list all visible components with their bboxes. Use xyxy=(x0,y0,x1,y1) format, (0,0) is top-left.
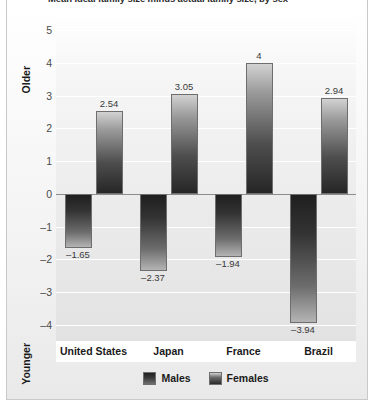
chart-figure: Mean ideal family size minus actual fami… xyxy=(0,0,372,403)
bar-value-label: 3.05 xyxy=(165,81,204,92)
legend-swatch-females xyxy=(209,372,222,385)
y-axis-tick-label: –1 xyxy=(28,221,52,233)
y-axis-tick-label: –2 xyxy=(28,253,52,265)
y-axis-top-label: Older xyxy=(20,66,32,93)
legend-item[interactable]: Females xyxy=(209,372,269,385)
y-axis-tick-label: 2 xyxy=(28,122,52,134)
y-axis-ticks: 543210–1–2–3–4 xyxy=(22,14,52,341)
bar-value-label: 2.54 xyxy=(90,98,129,109)
x-axis-category-label: United States xyxy=(56,341,131,362)
y-axis-tick-label: 1 xyxy=(28,155,52,167)
y-axis-tick-label: 0 xyxy=(28,188,52,200)
bar xyxy=(65,194,92,248)
x-axis-category-label: Brazil xyxy=(281,341,356,362)
y-axis-tick-label: –3 xyxy=(28,286,52,298)
bar xyxy=(215,194,242,257)
chart-title: Mean ideal family size minus actual fami… xyxy=(48,0,358,5)
y-axis-tick-label: 5 xyxy=(28,24,52,36)
bar xyxy=(290,194,317,323)
bar-value-label: –3.94 xyxy=(284,324,323,335)
y-axis-tick-label: –4 xyxy=(28,319,52,331)
bar-value-label: –2.37 xyxy=(134,272,173,283)
bar xyxy=(246,63,273,194)
bar xyxy=(140,194,167,271)
x-axis-category-label: Japan xyxy=(131,341,206,362)
x-axis-category-band: United StatesJapanFranceBrazil xyxy=(56,341,356,362)
plot-area: –1.652.54–2.373.05–1.944–3.942.94 xyxy=(56,14,356,341)
bar xyxy=(321,98,348,194)
gridline xyxy=(56,96,356,97)
bar-value-label: –1.65 xyxy=(59,249,98,260)
bar-value-label: –1.94 xyxy=(209,258,248,269)
chart-legend: MalesFemales xyxy=(56,368,356,388)
bar-value-label: 2.94 xyxy=(315,85,354,96)
legend-item[interactable]: Males xyxy=(143,372,190,385)
legend-label: Females xyxy=(227,372,269,384)
legend-label: Males xyxy=(161,372,190,384)
x-axis-category-label: France xyxy=(206,341,281,362)
bar xyxy=(171,94,198,194)
legend-swatch-males xyxy=(143,372,156,385)
y-axis-bottom-label: Younger xyxy=(20,343,32,385)
bar xyxy=(96,111,123,194)
gridline xyxy=(56,63,356,64)
bar-value-label: 4 xyxy=(240,50,279,61)
gridline xyxy=(56,30,356,31)
